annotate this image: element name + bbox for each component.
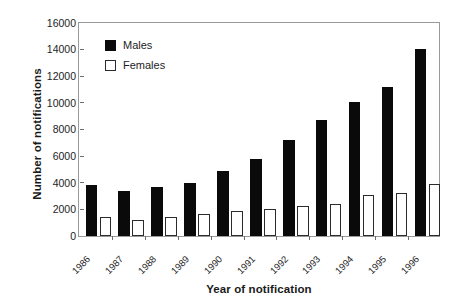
bar-males — [118, 191, 130, 236]
x-axis-tick-label: 1992 — [267, 254, 290, 277]
x-axis-tick-label: 1990 — [201, 254, 224, 277]
bar-males — [283, 140, 295, 236]
x-axis-tick-mark — [178, 236, 179, 240]
x-axis-tick-mark — [112, 236, 113, 240]
bar-females — [231, 211, 243, 236]
plot-area: 0200040006000800010000120001400016000 Ma… — [78, 22, 440, 237]
x-axis-tick-mark — [309, 236, 310, 240]
bar-females — [330, 204, 342, 236]
legend-item: Males — [105, 40, 165, 51]
bar-females — [264, 209, 276, 236]
bar-males — [250, 159, 262, 236]
bar-group — [375, 23, 408, 236]
legend-swatch-males — [105, 40, 116, 51]
bar-males — [415, 49, 427, 236]
y-axis-title: Number of notifications — [31, 29, 43, 239]
x-axis-tick-label: 1991 — [234, 254, 257, 277]
bar-males — [151, 187, 163, 236]
bar-males — [382, 87, 394, 236]
bar-chart-figure: Number of notifications 0200040006000800… — [0, 0, 466, 306]
y-axis-tick-label: 16000 — [47, 18, 80, 29]
y-axis-tick-label: 4000 — [53, 178, 80, 189]
bar-males — [316, 120, 328, 236]
legend-label: Males — [123, 40, 152, 51]
y-axis-tick-label: 2000 — [53, 204, 80, 215]
bar-females — [396, 193, 408, 236]
bar-males — [184, 183, 196, 236]
bar-males — [217, 171, 229, 236]
x-axis-title: Year of notification — [78, 283, 440, 295]
bar-females — [363, 195, 375, 236]
x-axis-tick-label: 1988 — [135, 254, 158, 277]
bar-females — [297, 206, 309, 236]
y-axis-tick-label: 6000 — [53, 151, 80, 162]
bar-males — [349, 102, 361, 236]
bar-females — [429, 184, 441, 236]
x-axis-tick-label: 1993 — [300, 254, 323, 277]
y-axis-tick-label: 14000 — [47, 44, 80, 55]
x-axis-tick-mark — [276, 236, 277, 240]
legend-swatch-females — [105, 60, 116, 71]
x-axis-tick-label: 1994 — [333, 254, 356, 277]
y-axis-tick-label: 10000 — [47, 98, 80, 109]
x-axis-tick-mark — [244, 236, 245, 240]
bar-group — [342, 23, 375, 236]
bar-males — [86, 185, 98, 236]
x-axis-tick-label: 1989 — [168, 254, 191, 277]
x-axis-tick-mark — [145, 236, 146, 240]
bar-group — [244, 23, 277, 236]
legend-label: Females — [123, 60, 165, 71]
bar-group — [211, 23, 244, 236]
x-axis-tick-label: 1987 — [103, 254, 126, 277]
bar-females — [165, 217, 177, 236]
bar-group — [178, 23, 211, 236]
y-axis-tick-label: 12000 — [47, 71, 80, 82]
legend-item: Females — [105, 60, 165, 71]
bar-females — [132, 220, 144, 236]
bar-group — [408, 23, 441, 236]
x-axis-tick-label: 1995 — [366, 254, 389, 277]
x-axis-tick-mark — [211, 236, 212, 240]
x-axis-tick-mark — [408, 236, 409, 240]
x-axis-tick-mark — [342, 236, 343, 240]
x-axis-tick-label: 1996 — [399, 254, 422, 277]
bar-females — [100, 217, 112, 236]
bar-group — [309, 23, 342, 236]
chart-legend: MalesFemales — [105, 40, 165, 71]
y-axis-tick-label: 8000 — [53, 124, 80, 135]
x-axis-tick-mark — [375, 236, 376, 240]
bar-females — [198, 214, 210, 236]
x-axis-tick-label: 1986 — [70, 254, 93, 277]
bar-group — [276, 23, 309, 236]
